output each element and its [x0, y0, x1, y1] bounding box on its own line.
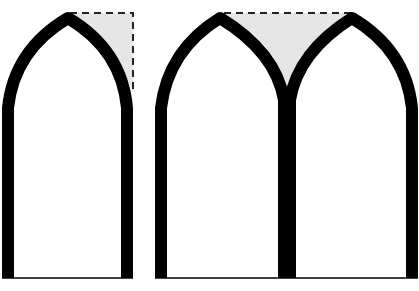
twin-arch-right-outline — [290, 18, 412, 278]
twin-arch-figure — [155, 13, 418, 278]
single-arch-figure — [2, 13, 133, 278]
diagram-canvas — [0, 0, 419, 291]
single-arch-outline — [8, 18, 127, 278]
twin-arch-spandrel — [222, 13, 352, 88]
twin-arch-mullion — [279, 98, 295, 278]
twin-arch-left-outline — [161, 18, 284, 278]
